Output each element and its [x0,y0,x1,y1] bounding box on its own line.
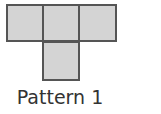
square-top-right [78,4,117,42]
square-top-middle [42,4,80,42]
pattern-caption: Pattern 1 [0,86,120,108]
square-top-left [6,4,44,42]
square-bottom-middle [42,41,80,81]
